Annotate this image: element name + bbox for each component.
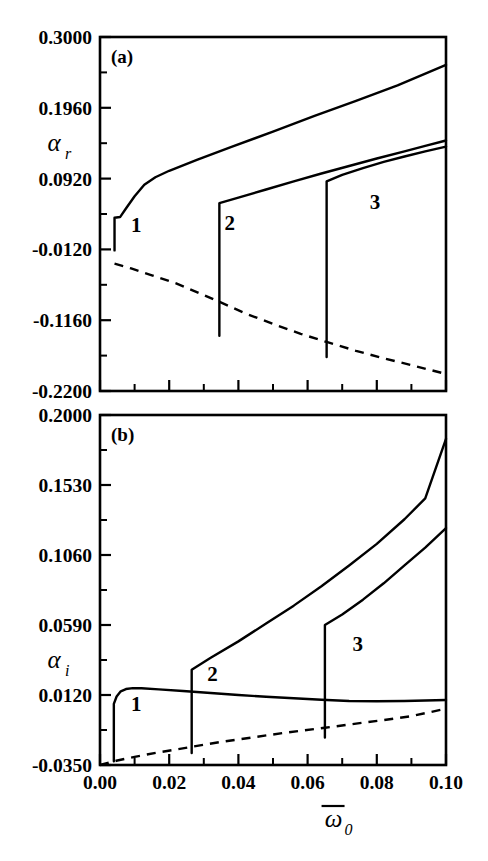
- x-axis-label-group: ω0: [322, 805, 353, 838]
- x-tick-label: 0.06: [291, 772, 325, 793]
- curve-branch-3: [325, 528, 446, 737]
- two-panel-bifurcation-chart: 0.30000.19600.0920-0.0120-0.1160-0.2200(…: [0, 0, 488, 861]
- y-tick-label: 0.1060: [38, 545, 92, 566]
- x-tick-label: 0.02: [152, 772, 186, 793]
- x-tick-label: 0.08: [360, 772, 394, 793]
- y-tick-label: 0.1530: [38, 475, 92, 496]
- curve-branch-1: [114, 688, 446, 761]
- panel-tag: (b): [111, 424, 134, 446]
- y-axis-subscript: i: [65, 662, 69, 679]
- y-tick-label: 0.0120: [38, 685, 92, 706]
- branch-annotation-3: 3: [353, 632, 364, 656]
- x-tick-label: 0.04: [221, 772, 255, 793]
- y-axis-subscript: r: [65, 145, 72, 162]
- figure-container: 0.30000.19600.0920-0.0120-0.1160-0.2200(…: [0, 0, 488, 861]
- y-axis-symbol: α: [47, 646, 61, 673]
- y-tick-label: 0.1960: [38, 98, 92, 119]
- branch-annotation-3: 3: [370, 190, 381, 214]
- curve-unstable-dashed: [115, 264, 446, 374]
- branch-annotation-1: 1: [131, 213, 142, 237]
- y-tick-label: -0.1160: [33, 310, 92, 331]
- panel-tag: (a): [111, 46, 133, 68]
- curve-branch-2: [192, 439, 446, 753]
- branch-annotation-2: 2: [207, 662, 218, 686]
- plot-frame: [100, 415, 446, 765]
- y-tick-label: 0.0920: [38, 169, 92, 190]
- branch-annotation-2: 2: [225, 211, 236, 235]
- y-tick-label: 0.2000: [38, 405, 92, 426]
- y-tick-label: 0.3000: [38, 27, 92, 48]
- curve-unstable-dashed: [100, 709, 446, 765]
- y-tick-label: 0.0590: [38, 615, 92, 636]
- curve-branch-2: [219, 140, 446, 335]
- x-axis-symbol: ω: [325, 805, 343, 832]
- panel-b: 0.20000.15300.10600.05900.0120-0.03500.0…: [32, 405, 463, 793]
- branch-annotation-1: 1: [131, 692, 142, 716]
- x-axis-subscript: 0: [345, 821, 353, 838]
- curve-branch-3: [327, 147, 446, 357]
- panel-a: 0.30000.19600.0920-0.0120-0.1160-0.2200(…: [32, 27, 446, 402]
- plot-frame: [100, 37, 446, 391]
- y-tick-label: -0.0120: [32, 239, 92, 260]
- y-axis-symbol: α: [47, 129, 61, 156]
- x-tick-label: 0.10: [429, 772, 463, 793]
- y-tick-label: -0.2200: [32, 381, 92, 402]
- x-tick-label: 0.00: [83, 772, 117, 793]
